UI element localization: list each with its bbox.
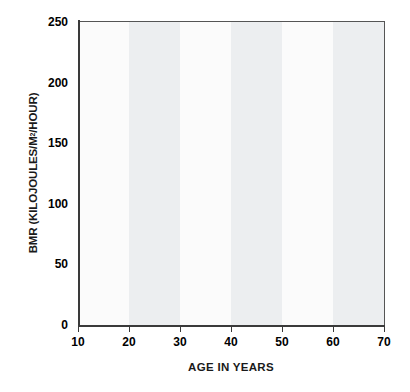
y-tick-label: 0 xyxy=(34,319,68,331)
x-tick-mark xyxy=(333,325,334,332)
y-tick-label: 150 xyxy=(34,137,68,149)
y-tick-label-group: 050100150200250 xyxy=(34,0,68,392)
bmr-vs-age-chart: BMR (KILOJOULES/M2/HOUR) 050100150200250… xyxy=(0,0,410,392)
x-tick-mark xyxy=(180,325,181,332)
background-bands xyxy=(78,22,384,325)
x-tick-mark xyxy=(129,325,130,332)
x-tick-mark xyxy=(282,325,283,332)
background-band xyxy=(129,22,180,325)
background-band xyxy=(231,22,282,325)
axis-top-line xyxy=(78,21,385,22)
x-tick-mark xyxy=(231,325,232,332)
y-tick-label: 250 xyxy=(34,16,68,28)
x-tick-label: 70 xyxy=(364,336,404,348)
x-tick-label: 50 xyxy=(262,336,302,348)
x-tick-label: 40 xyxy=(211,336,251,348)
x-tick-mark xyxy=(78,325,79,332)
y-tick-label: 200 xyxy=(34,77,68,89)
plot-area xyxy=(78,22,384,325)
background-band xyxy=(333,22,384,325)
y-tick-label: 100 xyxy=(34,198,68,210)
x-axis-title: AGE IN YEARS xyxy=(78,361,384,373)
x-tick-label: 60 xyxy=(313,336,353,348)
y-tick-label: 50 xyxy=(34,258,68,270)
x-tick-label: 30 xyxy=(160,336,200,348)
axis-right-line xyxy=(384,21,385,326)
axis-left-line xyxy=(78,20,80,327)
x-tick-label: 10 xyxy=(58,336,98,348)
x-tick-mark xyxy=(384,325,385,332)
x-tick-label: 20 xyxy=(109,336,149,348)
